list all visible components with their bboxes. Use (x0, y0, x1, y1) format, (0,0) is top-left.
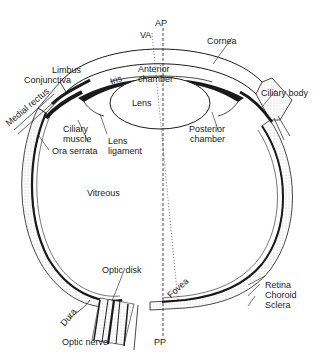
label-posterior-chamber-1: Posterior (189, 124, 225, 134)
label-conjunctiva: Conjunctiva (24, 75, 71, 85)
label-anterior-chamber-1: Anterior (138, 64, 170, 74)
label-posterior-pole: PP (154, 337, 166, 347)
label-anterior-pole: AP (155, 18, 167, 28)
label-lens-ligament-2: ligament (108, 146, 142, 156)
label-retina: Retina (265, 280, 291, 290)
label-optic-nerve: Optic nerve (62, 337, 108, 347)
label-ciliary-muscle-1: Ciliary (63, 124, 88, 134)
label-lens-ligament-1: Lens (108, 136, 128, 146)
label-ora-serrata: Ora serrata (52, 146, 98, 156)
label-sclera: Sclera (265, 300, 291, 310)
label-ciliary-body: Ciliary body (261, 88, 308, 98)
label-ciliary-muscle-2: muscle (63, 134, 92, 144)
label-anterior-chamber-2: chamber (138, 74, 173, 84)
label-cornea: Cornea (207, 36, 237, 46)
label-optic-disk: Optic disk (102, 265, 142, 275)
label-choroid: Choroid (265, 290, 297, 300)
label-limbus: Limbus (52, 65, 81, 75)
label-visual-axis: VA (140, 30, 151, 40)
label-lens: Lens (132, 98, 152, 108)
label-posterior-chamber-2: chamber (190, 134, 225, 144)
lens (110, 77, 210, 129)
label-vitreous: Vitreous (87, 188, 120, 198)
